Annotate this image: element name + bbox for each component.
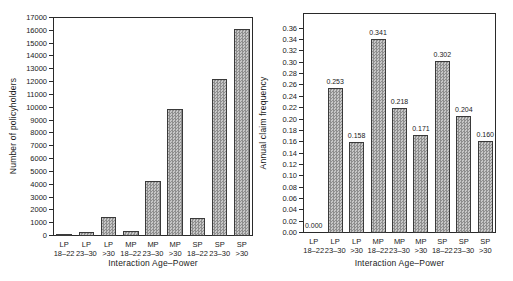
y-tick-mark (49, 222, 53, 223)
y-tick-mark (49, 197, 53, 198)
y-tick-mark (49, 171, 53, 172)
bar (167, 109, 183, 236)
y-tick-label: 10000 (7, 103, 47, 112)
bar-charts-figure: Number of policyholders Interaction Age–… (0, 0, 513, 281)
y-tick-label: 5000 (7, 167, 47, 176)
y-tick-label: 12000 (7, 77, 47, 86)
y-tick-label: 0.34 (257, 35, 297, 44)
y-tick-mark (299, 164, 303, 165)
bar (371, 39, 386, 233)
y-tick-label: 15000 (7, 39, 47, 48)
y-tick-label: 16000 (7, 26, 47, 35)
y-tick-mark (299, 62, 303, 63)
bar (123, 231, 139, 236)
bar (56, 234, 72, 236)
bar (79, 232, 95, 236)
y-tick-label: 0.36 (257, 24, 297, 33)
y-tick-label: 9000 (7, 116, 47, 125)
y-tick-label: 0.32 (257, 46, 297, 55)
y-tick-mark (49, 235, 53, 236)
y-tick-label: 0.30 (257, 58, 297, 67)
y-tick-label: 0.04 (257, 205, 297, 214)
y-tick-mark (299, 28, 303, 29)
y-tick-label: 0.22 (257, 103, 297, 112)
y-tick-mark (299, 73, 303, 74)
y-tick-mark (49, 55, 53, 56)
y-tick-label: 0.24 (257, 92, 297, 101)
y-tick-label: 3000 (7, 193, 47, 202)
bar (145, 181, 161, 236)
y-tick-mark (299, 198, 303, 199)
y-tick-mark (299, 84, 303, 85)
bar (328, 88, 343, 233)
y-tick-mark (299, 107, 303, 108)
y-tick-mark (299, 209, 303, 210)
bar-category-label: SP>30 (220, 240, 264, 258)
bar-value-label: 0.341 (356, 29, 400, 37)
y-tick-label: 0 (7, 231, 47, 240)
y-tick-label: 13000 (7, 64, 47, 73)
y-tick-mark (299, 141, 303, 142)
y-tick-label: 1000 (7, 218, 47, 227)
y-tick-mark (299, 175, 303, 176)
y-tick-mark (49, 184, 53, 185)
y-tick-mark (299, 39, 303, 40)
bar (478, 141, 493, 233)
y-tick-mark (299, 119, 303, 120)
y-tick-label: 7000 (7, 141, 47, 150)
x-axis-title: Interaction Age–Power (355, 258, 445, 268)
bar (349, 142, 364, 233)
bar-category-label: SP>30 (463, 237, 507, 255)
y-tick-mark (299, 232, 303, 233)
bar (101, 217, 117, 236)
y-tick-label: 0.20 (257, 115, 297, 124)
y-tick-label: 2000 (7, 205, 47, 214)
y-tick-mark (299, 187, 303, 188)
y-tick-mark (49, 107, 53, 108)
bar (413, 135, 428, 233)
y-tick-label: 17000 (7, 13, 47, 22)
bar-value-label: 0.160 (463, 131, 507, 139)
y-tick-label: 0.28 (257, 69, 297, 78)
y-tick-label: 11000 (7, 90, 47, 99)
y-tick-mark (49, 68, 53, 69)
y-tick-label: 8000 (7, 128, 47, 137)
y-tick-label: 0.14 (257, 149, 297, 158)
y-tick-mark (299, 130, 303, 131)
y-tick-label: 0.06 (257, 194, 297, 203)
y-tick-label: 4000 (7, 180, 47, 189)
y-tick-label: 0.08 (257, 183, 297, 192)
x-axis-title: Interaction Age–Power (108, 258, 198, 268)
y-tick-mark (49, 145, 53, 146)
y-tick-mark (49, 158, 53, 159)
y-tick-mark (49, 120, 53, 121)
y-tick-mark (49, 94, 53, 95)
y-tick-mark (299, 50, 303, 51)
y-tick-mark (49, 209, 53, 210)
bar (212, 79, 228, 236)
y-tick-mark (299, 96, 303, 97)
y-tick-label: 0.10 (257, 171, 297, 180)
y-tick-label: 14000 (7, 51, 47, 60)
bar-value-label: 0.218 (378, 98, 422, 106)
bar (435, 61, 450, 233)
y-tick-label: 0.12 (257, 160, 297, 169)
y-tick-label: 0.26 (257, 80, 297, 89)
y-tick-mark (49, 132, 53, 133)
y-tick-mark (49, 43, 53, 44)
y-tick-label: 6000 (7, 154, 47, 163)
bar (190, 218, 206, 236)
y-tick-label: 0.16 (257, 137, 297, 146)
y-tick-mark (299, 153, 303, 154)
bar-value-label: 0.302 (420, 51, 464, 59)
y-tick-label: 0.18 (257, 126, 297, 135)
y-tick-mark (49, 30, 53, 31)
bar-value-label: 0.204 (442, 106, 486, 114)
bar-value-label: 0.253 (313, 78, 357, 86)
y-tick-mark (49, 17, 53, 18)
bar (234, 29, 250, 236)
y-tick-mark (49, 81, 53, 82)
